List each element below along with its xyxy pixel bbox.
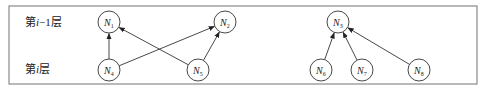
layer-labels: 第i−1层第i层 [25,15,62,75]
node-N4: N4 [98,59,120,81]
node-N6: N6 [310,59,332,81]
layer-label-lower: 第i层 [25,62,50,75]
edge-N6-to-N3 [325,33,334,60]
diagram-frame [9,6,477,84]
node-N3: N3 [327,11,349,33]
edge-N7-to-N3 [343,32,357,60]
nodes: N1N2N3N4N5N6N7N8 [98,11,430,81]
edge-N8-to-N3 [348,28,410,65]
node-N2: N2 [214,11,236,33]
edge-N5-to-N2 [203,32,219,60]
layer-label-upper: 第i−1层 [25,15,62,28]
node-N7: N7 [351,59,373,81]
node-N8: N8 [408,59,430,81]
node-N5: N5 [187,59,209,81]
edge-N5-to-N1 [119,27,188,64]
node-N1: N1 [98,11,120,33]
layered-graph-diagram: 第i−1层第i层 N1N2N3N4N5N6N7N8 [0,0,486,90]
